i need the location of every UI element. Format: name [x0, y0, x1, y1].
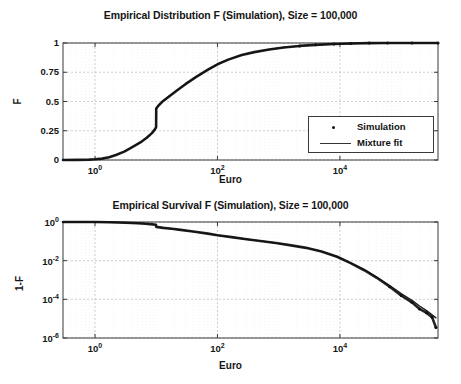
- y-tick-label: 0.5: [19, 96, 59, 107]
- y-axis-label-survival: 1-F: [14, 276, 25, 291]
- y-tick-exponent: -2: [53, 255, 59, 262]
- x-tick-exponent: 0: [98, 164, 102, 171]
- y-tick-label: 10-6: [19, 332, 59, 344]
- y-tick-base: 10: [42, 256, 53, 267]
- y-tick-label: 100: [19, 216, 59, 228]
- legend-label-mixture-fit: Mixture fit: [357, 137, 402, 148]
- y-tick-label: 1: [19, 37, 59, 48]
- x-tick-base: 10: [210, 343, 221, 354]
- y-tick-base: 10: [42, 294, 53, 305]
- x-tick-exponent: 2: [221, 164, 225, 171]
- x-tick-base: 10: [88, 165, 99, 176]
- x-tick-base: 10: [88, 343, 99, 354]
- x-tick-label: 104: [322, 164, 358, 176]
- dot-marker-icon: [316, 119, 354, 136]
- x-tick-exponent: 4: [343, 342, 347, 349]
- figure-canvas: Empirical Distribution F (Simulation), S…: [0, 0, 461, 384]
- y-tick-label: 0.75: [19, 66, 59, 77]
- plot-area-survival: [0, 192, 461, 384]
- y-tick-exponent: -4: [53, 293, 59, 300]
- x-tick-base: 10: [210, 165, 221, 176]
- x-tick-base: 10: [333, 343, 344, 354]
- y-tick-exponent: -6: [53, 332, 59, 339]
- x-tick-label: 100: [77, 342, 113, 354]
- x-tick-base: 10: [333, 165, 344, 176]
- x-tick-label: 102: [199, 164, 235, 176]
- chart-panel-empirical-distribution: Empirical Distribution F (Simulation), S…: [0, 0, 461, 192]
- legend-item-simulation: Simulation: [309, 119, 433, 136]
- x-tick-exponent: 2: [221, 342, 225, 349]
- y-tick-label: 10-2: [19, 255, 59, 267]
- line-marker-icon: [316, 135, 354, 152]
- y-tick-label: 0.25: [19, 125, 59, 136]
- chart-panel-empirical-survival: Empirical Survival F (Simulation), Size …: [0, 192, 461, 384]
- x-axis-label-survival: Euro: [0, 360, 461, 371]
- y-tick-label: 10-4: [19, 293, 59, 305]
- x-tick-label: 100: [77, 164, 113, 176]
- y-tick-base: 10: [42, 333, 53, 344]
- x-tick-label: 102: [199, 342, 235, 354]
- x-tick-exponent: 4: [343, 164, 347, 171]
- y-tick-exponent: 0: [55, 216, 59, 223]
- x-tick-exponent: 0: [98, 342, 102, 349]
- legend-distribution: Simulation Mixture fit: [308, 116, 434, 153]
- y-tick-label: 0: [19, 154, 59, 165]
- y-tick-base: 10: [45, 217, 56, 228]
- x-tick-label: 104: [322, 342, 358, 354]
- legend-label-simulation: Simulation: [357, 121, 406, 132]
- legend-item-mixture-fit: Mixture fit: [309, 135, 433, 152]
